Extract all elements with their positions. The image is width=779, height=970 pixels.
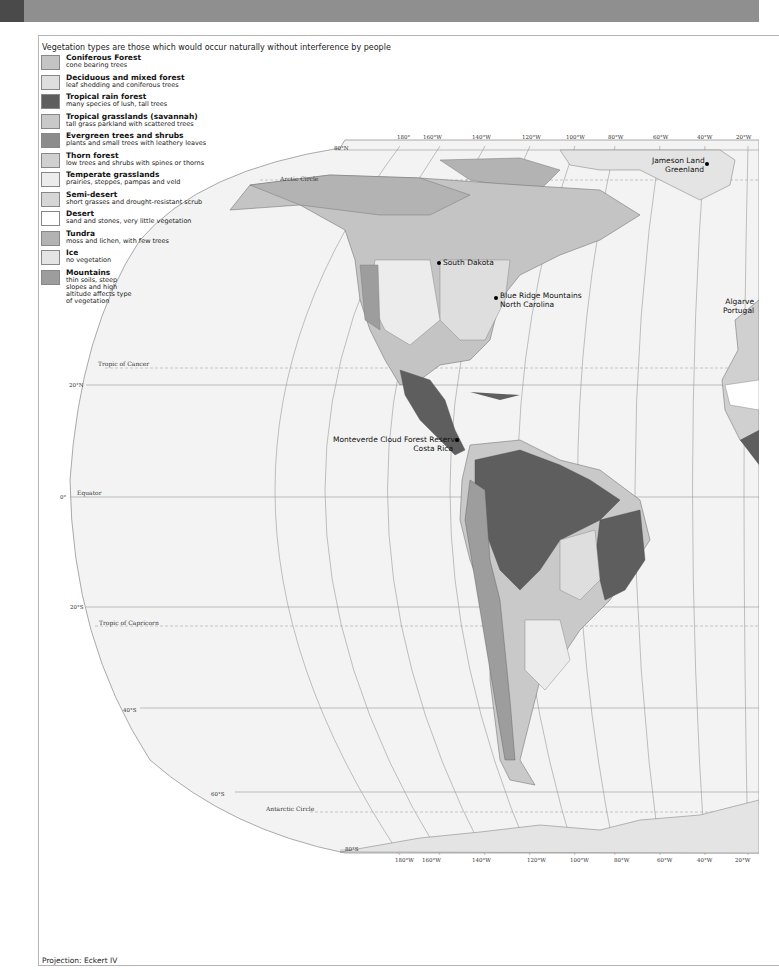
lon-label-top: 120°W — [522, 134, 541, 140]
legend-swatch — [41, 231, 60, 246]
legend-item-desc: leaf shedding and coniferous trees — [66, 82, 179, 89]
lon-label-bottom: 180°W — [395, 857, 414, 863]
lon-label-top: 20°W — [736, 134, 751, 140]
tropic-of-capricorn-label: Tropic of Capricorn — [99, 619, 159, 626]
legend-item-desc: cone bearing trees — [66, 62, 127, 69]
location-marker-south-dakota[interactable] — [437, 261, 441, 265]
legend-item-desc: many species of lush, tall trees — [66, 101, 167, 108]
legend-item-evergreen: Evergreen trees and shrubsplants and sma… — [41, 132, 281, 152]
legend-item-coniferous-forest: Coniferous Forestcone bearing trees — [41, 54, 281, 74]
lon-label-top: 180° — [397, 134, 410, 140]
location-marker-jameson-land[interactable] — [705, 162, 709, 166]
legend-swatch — [41, 153, 60, 168]
legend-swatch — [41, 55, 60, 70]
location-label-jameson-land: Jameson LandGreenland — [652, 156, 704, 174]
legend-swatch — [41, 270, 60, 285]
tropic-of-cancer-label: Tropic of Cancer — [98, 360, 149, 367]
legend-item-desc: sand and stones, very little vegetation — [66, 218, 192, 225]
equator-label: Equator — [77, 489, 102, 496]
legend-swatch — [41, 211, 60, 226]
lat-label-80n: 80°N — [334, 145, 349, 151]
legend-item-ice: Iceno vegetation — [41, 249, 281, 269]
legend-item-semi-desert: Semi-desertshort grasses and drought-res… — [41, 191, 281, 211]
lon-label-bottom: 40°W — [697, 857, 712, 863]
legend-item-desc: short grasses and drought-resistant scru… — [66, 199, 202, 206]
antarctic-circle-label: Antarctic Circle — [266, 805, 314, 812]
lat-label-20n: 20°N — [69, 382, 84, 388]
lat-label-80s: 80°S — [345, 846, 359, 852]
lat-label-40s: 40°S — [123, 707, 137, 713]
legend-item-tropical-grasslands: Tropical grasslands (savannah)tall grass… — [41, 113, 281, 133]
legend-swatch — [41, 133, 60, 148]
legend-swatch — [41, 75, 60, 90]
legend-swatch — [41, 94, 60, 109]
legend-item-desc: prairies, steppes, pampas and veld — [66, 179, 180, 186]
lat-label-0: 0° — [60, 494, 66, 500]
lon-label-bottom: 100°W — [570, 857, 589, 863]
lon-label-bottom: 140°W — [472, 857, 491, 863]
lon-label-bottom: 20°W — [735, 857, 750, 863]
legend-item-tundra: Tundramoss and lichen, with few trees — [41, 230, 281, 250]
legend-item-temperate-grasslands: Temperate grasslandsprairies, steppes, p… — [41, 171, 281, 191]
lon-label-bottom: 60°W — [657, 857, 672, 863]
projection-note: Projection: Eckert IV — [42, 956, 117, 965]
lon-label-top: 60°W — [653, 134, 668, 140]
location-label-algarve: AlgarvePortugal — [723, 297, 754, 315]
legend-item-tropical-rain-forest: Tropical rain forestmany species of lush… — [41, 93, 281, 113]
lon-label-bottom: 120°W — [527, 857, 546, 863]
legend-item-desc: no vegetation — [66, 257, 111, 264]
lon-label-bottom: 80°W — [614, 857, 629, 863]
legend-item-desc: moss and lichen, with few trees — [66, 238, 169, 245]
legend-item-thorn-forest: Thorn forestlow trees and shrubs with sp… — [41, 152, 281, 172]
lon-label-top: 140°W — [472, 134, 491, 140]
location-label-monteverde: Monteverde Cloud Forest ReserveCosta Ric… — [333, 435, 453, 453]
lat-label-20s: 20°S — [70, 604, 84, 610]
lon-label-top: 100°W — [566, 134, 585, 140]
legend-item-desert: Desertsand and stones, very little veget… — [41, 210, 281, 230]
legend: Coniferous Forestcone bearing trees Deci… — [41, 54, 281, 329]
arctic-circle-label: Arctic Circle — [280, 175, 318, 182]
legend-item-mountains: Mountainsthin soils, steep slopes and hi… — [41, 269, 281, 329]
legend-swatch — [41, 250, 60, 265]
lon-label-bottom: 160°W — [422, 857, 441, 863]
legend-item-desc: plants and small trees with leathery lea… — [66, 140, 206, 147]
lon-label-top: 40°W — [697, 134, 712, 140]
legend-swatch — [41, 114, 60, 129]
legend-item-desc: tall grass parkland with scattered trees — [66, 121, 194, 128]
lon-label-top: 160°W — [423, 134, 442, 140]
location-label-south-dakota: South Dakota — [443, 258, 494, 267]
lat-label-60s: 60°S — [211, 791, 225, 797]
legend-item-desc: thin soils, steep slopes and high altitu… — [66, 277, 136, 305]
location-label-blue-ridge: Blue Ridge MountainsNorth Carolina — [500, 291, 582, 309]
legend-item-desc: low trees and shrubs with spines or thor… — [66, 160, 204, 167]
legend-title: Vegetation types are those which would o… — [42, 43, 391, 52]
legend-item-deciduous-forest: Deciduous and mixed forestleaf shedding … — [41, 74, 281, 94]
location-marker-blue-ridge[interactable] — [494, 296, 498, 300]
legend-swatch — [41, 172, 60, 187]
lon-label-top: 80°W — [608, 134, 623, 140]
legend-swatch — [41, 192, 60, 207]
